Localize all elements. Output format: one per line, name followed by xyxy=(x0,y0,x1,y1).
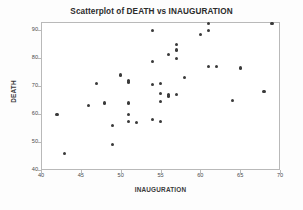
y-axis-tick-mark xyxy=(37,30,41,31)
x-axis-tick-mark xyxy=(81,170,82,174)
x-axis-tick-mark xyxy=(161,170,162,174)
scatterplot-figure: Scatterplot of DEATH vs INAUGURATION 405… xyxy=(0,0,303,210)
x-axis-tick-mark xyxy=(280,170,281,174)
y-axis-tick-mark xyxy=(37,114,41,115)
y-axis-tick-mark xyxy=(37,142,41,143)
x-axis-tick-labels: 40455055606570 xyxy=(0,0,303,210)
y-axis-title: DEATH xyxy=(10,67,17,117)
x-axis-tick-mark xyxy=(121,170,122,174)
x-axis-tick-mark xyxy=(200,170,201,174)
x-axis-title: INAUGURATION xyxy=(41,186,280,193)
y-axis-tick-mark xyxy=(37,170,41,171)
x-axis-tick-mark xyxy=(41,170,42,174)
y-axis-tick-mark xyxy=(37,58,41,59)
y-axis-tick-mark xyxy=(37,86,41,87)
x-axis-tick-mark xyxy=(240,170,241,174)
